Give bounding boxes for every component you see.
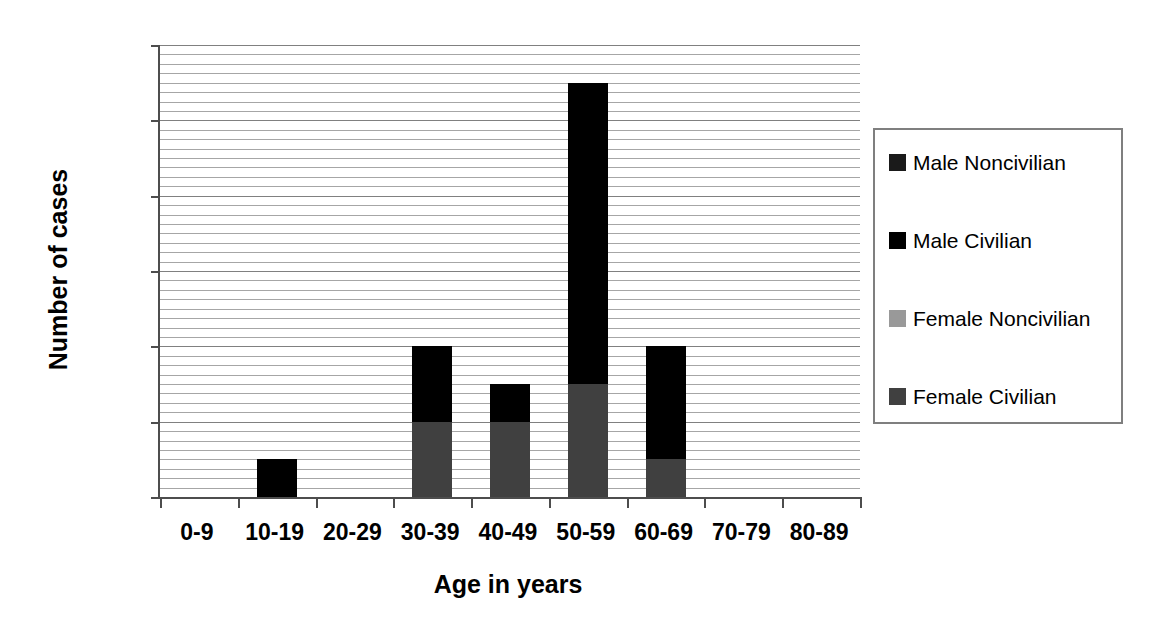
gridline-minor: [160, 375, 860, 376]
gridline-minor: [160, 328, 860, 329]
bar-segment: [646, 346, 686, 459]
x-tick-mark: [704, 497, 706, 508]
y-tick-mark: [151, 196, 160, 198]
bar-segment: [257, 459, 297, 497]
y-axis-title: Number of cases: [44, 120, 73, 420]
legend-swatch-icon: [889, 310, 906, 327]
legend-item-female-noncivilian[interactable]: Female Noncivilian: [889, 308, 1090, 329]
gridline-minor: [160, 73, 860, 74]
bar-stack-40-49: [490, 384, 530, 497]
legend-label: Male Noncivilian: [913, 152, 1066, 173]
gridline-minor: [160, 186, 860, 187]
bar-stack-10-19: [257, 459, 297, 497]
x-tick-mark: [471, 497, 473, 508]
chart-legend: Male NoncivilianMale CivilianFemale Nonc…: [873, 128, 1123, 424]
legend-label: Female Noncivilian: [913, 308, 1090, 329]
legend-item-female-civilian[interactable]: Female Civilian: [889, 386, 1057, 407]
legend-swatch-icon: [889, 232, 906, 249]
x-tick-mark: [782, 497, 784, 508]
gridline-minor: [160, 262, 860, 263]
x-tick-mark: [860, 497, 862, 508]
bar-stack-60-69: [646, 346, 686, 497]
gridline-minor: [160, 224, 860, 225]
bar-stack-30-39: [412, 346, 452, 497]
y-tick-mark: [151, 120, 160, 122]
legend-label: Female Civilian: [913, 386, 1057, 407]
gridline-minor: [160, 111, 860, 112]
gridline-minor: [160, 215, 860, 216]
gridline-minor: [160, 309, 860, 310]
plot-area: [158, 45, 860, 499]
gridline-minor: [160, 177, 860, 178]
y-tick-mark: [151, 346, 160, 348]
y-tick-mark: [151, 271, 160, 273]
gridline-minor: [160, 64, 860, 65]
bar-segment: [646, 459, 686, 497]
x-axis-title: Age in years: [158, 570, 858, 599]
gridline-minor: [160, 233, 860, 234]
gridline-minor: [160, 54, 860, 55]
x-tick-mark: [549, 497, 551, 508]
gridline-minor: [160, 365, 860, 366]
bar-segment: [412, 422, 452, 497]
gridline-major: [160, 196, 860, 197]
legend-swatch-icon: [889, 388, 906, 405]
x-category-label: 80-89: [759, 519, 879, 546]
bar-stack-50-59: [568, 83, 608, 497]
bar-segment: [568, 83, 608, 384]
legend-item-male-civilian[interactable]: Male Civilian: [889, 230, 1032, 251]
legend-label: Male Civilian: [913, 230, 1032, 251]
x-tick-mark: [160, 497, 162, 508]
gridline-minor: [160, 252, 860, 253]
gridline-major: [160, 45, 860, 46]
y-tick-mark: [151, 497, 160, 499]
gridline-minor: [160, 158, 860, 159]
bar-segment: [412, 346, 452, 421]
y-tick-mark: [151, 422, 160, 424]
gridline-minor: [160, 205, 860, 206]
gridline-minor: [160, 167, 860, 168]
gridline-minor: [160, 243, 860, 244]
bar-chart: Number of cases 024681012 0-910-1920-293…: [0, 0, 1171, 635]
legend-item-male-noncivilian[interactable]: Male Noncivilian: [889, 152, 1066, 173]
bar-segment: [490, 384, 530, 422]
gridline-major: [160, 271, 860, 272]
legend-swatch-icon: [889, 154, 906, 171]
gridline-minor: [160, 130, 860, 131]
y-tick-mark: [151, 45, 160, 47]
gridline-minor: [160, 290, 860, 291]
gridline-minor: [160, 149, 860, 150]
x-tick-mark: [627, 497, 629, 508]
x-tick-mark: [316, 497, 318, 508]
gridline-minor: [160, 337, 860, 338]
gridline-minor: [160, 139, 860, 140]
x-tick-mark: [238, 497, 240, 508]
bar-segment: [568, 384, 608, 497]
gridline-minor: [160, 318, 860, 319]
bar-segment: [490, 422, 530, 497]
x-tick-mark: [393, 497, 395, 508]
gridline-minor: [160, 102, 860, 103]
gridline-major: [160, 120, 860, 121]
gridline-minor: [160, 92, 860, 93]
gridline-minor: [160, 83, 860, 84]
gridline-minor: [160, 280, 860, 281]
gridline-minor: [160, 299, 860, 300]
gridline-minor: [160, 356, 860, 357]
gridline-major: [160, 346, 860, 347]
